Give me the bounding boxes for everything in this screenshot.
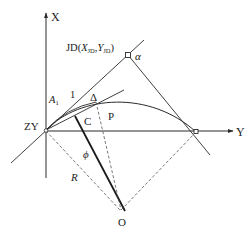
- o-label: O: [118, 216, 126, 228]
- delta-label: Δ: [90, 91, 97, 103]
- x-axis-label: X: [51, 10, 60, 24]
- radius-zy-o: [46, 131, 120, 210]
- tangent-line-1: [11, 40, 144, 163]
- c-label: C: [84, 115, 91, 127]
- tangent-line-2: [128, 55, 210, 155]
- end-point: [194, 130, 198, 134]
- phi-line: [75, 116, 125, 211]
- y-axis-label: Y: [236, 125, 245, 139]
- jd-label: JD(XJD,YJD): [66, 42, 115, 54]
- a1-label: A1: [48, 94, 59, 106]
- zy-point: [44, 129, 48, 133]
- circular-arc: [46, 102, 196, 132]
- curve-diagram: X Y JD(XJD,YJD) α A1 1 Δ C P ZY ϕ R O: [0, 0, 250, 235]
- zy-label: ZY: [24, 120, 39, 132]
- phi-label: ϕ: [83, 148, 89, 160]
- r-label: R: [70, 171, 78, 183]
- alpha-label: α: [135, 50, 141, 62]
- p-label: P: [108, 110, 114, 122]
- radius-end-o: [121, 132, 196, 210]
- jd-point: [126, 53, 131, 58]
- line-1-label: 1: [70, 89, 75, 100]
